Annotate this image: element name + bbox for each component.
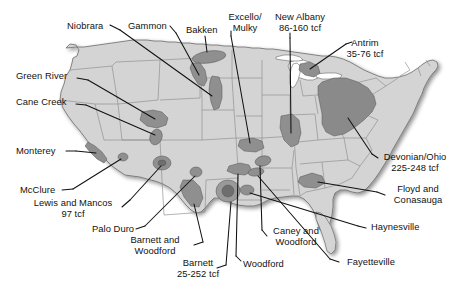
map-label-barnett-and-woodford: Barnett andWoodford xyxy=(110,235,200,256)
leader-gammon xyxy=(170,26,176,33)
map-label-caney-and-woodford: Caney andWoodford xyxy=(256,226,336,247)
map-label-mcclure: McClure xyxy=(20,185,55,196)
leader-fayetteville xyxy=(330,259,339,262)
palo-duro-basin xyxy=(190,167,202,177)
shale-basin-map-figure: Niobrara Gammon Bakken Excello/Mulky New… xyxy=(0,0,463,300)
leader-niobrara xyxy=(110,25,120,30)
leader-mcclure xyxy=(62,189,73,190)
map-label-woodford: Woodford xyxy=(243,259,284,270)
map-label-cane-creek: Cane Creek xyxy=(16,97,67,108)
map-label-monterey: Monterey xyxy=(16,146,55,157)
map-label-devonian-ohio: Devonian/Ohio225-248 tcf xyxy=(368,152,462,173)
map-label-antrim: Antrim35-76 tcf xyxy=(333,38,397,59)
leader-barnett-2 xyxy=(226,202,231,265)
leader-palo-duro xyxy=(136,226,145,229)
map-label-lewis-and-mancos: Lewis and Mancos97 tcf xyxy=(10,198,136,219)
map-label-haynesville: Haynesville xyxy=(371,222,420,233)
leader-haynesville xyxy=(358,226,366,228)
lewis-mancos-basin xyxy=(153,156,171,170)
leader-mcclure-2 xyxy=(73,159,121,189)
map-label-palo-duro: Palo Duro xyxy=(92,224,134,235)
map-label-gammon: Gammon xyxy=(128,21,167,32)
barnett-basin xyxy=(216,180,240,202)
map-label-green-river: Green River xyxy=(16,71,67,82)
map-label-fayetteville: Fayetteville xyxy=(347,257,395,268)
map-label-new-albany: New Albany86-160 tcf xyxy=(262,12,338,33)
map-label-niobrara: Niobrara xyxy=(67,21,103,32)
map-label-floyd-and-conasauga: Floyd andConasauga xyxy=(374,184,462,205)
map-label-barnett: Barnett25-252 tcf xyxy=(158,258,238,279)
